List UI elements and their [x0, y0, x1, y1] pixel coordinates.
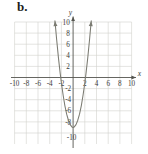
x-tick-label: 10: [128, 80, 136, 88]
y-tick-label: -2: [65, 85, 71, 93]
coordinate-plane: x y -10 -8 -6 -4 -2 2 4 6 8 10 10 8 6 4: [0, 0, 148, 154]
x-tick-label: -4: [47, 80, 53, 88]
y-axis-name-label: y: [68, 8, 73, 17]
y-tick-label: 6: [66, 41, 70, 49]
x-tick-label: -6: [35, 80, 41, 88]
y-tick-label: -10: [67, 134, 77, 142]
y-tick-label: 4: [66, 52, 70, 60]
y-axis-arrowhead: [71, 17, 75, 22]
x-tick-label: -8: [23, 80, 29, 88]
graph-figure-screenshot: b.: [0, 0, 148, 154]
x-tick-label: 4: [95, 80, 99, 88]
y-tick-label: 2: [66, 63, 70, 71]
y-tick-label: -4: [65, 96, 71, 104]
y-tick-label: 10: [63, 19, 71, 27]
x-axis-name-label: x: [137, 69, 142, 78]
y-tick-label: 8: [66, 30, 70, 38]
x-tick-label: -10: [10, 80, 20, 88]
x-tick-label: 8: [118, 80, 122, 88]
x-tick-label: 6: [106, 80, 110, 88]
